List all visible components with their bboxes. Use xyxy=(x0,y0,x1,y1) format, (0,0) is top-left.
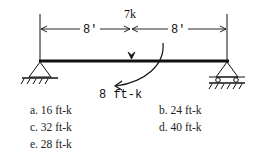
answer-choices: a. 16 ft-k b. 24 ft-k c. 32 ft-k d. 40 f… xyxy=(0,100,263,155)
roller-support-icon xyxy=(209,62,245,89)
right-span-label: 8' xyxy=(171,23,185,37)
choice-d[interactable]: d. 40 ft-k xyxy=(159,121,201,133)
beam xyxy=(39,60,229,63)
moment-arrow-icon xyxy=(115,43,163,90)
choice-b[interactable]: b. 24 ft-k xyxy=(159,104,201,116)
beam-diagram: 8' 8' 7k 8 ft-k xyxy=(0,0,263,100)
moment-label: 8 ft-k xyxy=(99,88,142,100)
point-load-label: 7k xyxy=(124,7,136,21)
pin-support-icon xyxy=(21,62,58,84)
choice-e[interactable]: e. 28 ft-k xyxy=(30,138,72,150)
dimension-line xyxy=(41,26,226,32)
point-load-arrow-icon xyxy=(128,52,135,59)
choice-c[interactable]: c. 32 ft-k xyxy=(30,121,72,133)
choice-a[interactable]: a. 16 ft-k xyxy=(30,104,72,116)
left-span-label: 8' xyxy=(83,23,97,37)
